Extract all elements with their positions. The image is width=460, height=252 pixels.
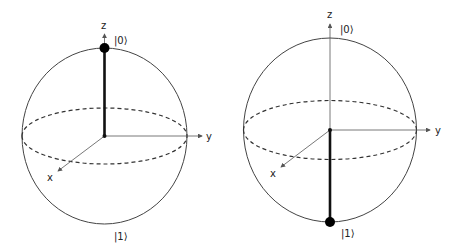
z-axis-label: z	[101, 20, 106, 31]
x-axis-label: x	[47, 172, 53, 183]
ket0-label: |0⟩	[114, 35, 128, 47]
bloch-sphere-right: z |0⟩ y x |1⟩	[244, 9, 442, 240]
ket1-label: |1⟩	[114, 231, 128, 243]
center-point	[328, 128, 332, 132]
equator-front	[22, 136, 187, 164]
ket1-label: |1⟩	[341, 228, 355, 240]
y-axis-label: y	[435, 125, 441, 136]
center-point	[103, 134, 107, 138]
diagram-canvas: z |0⟩ y x |1⟩ z |0⟩ y x |1⟩	[0, 0, 460, 252]
x-axis	[281, 130, 330, 167]
x-axis	[58, 136, 105, 171]
z-axis-label: z	[327, 9, 332, 20]
state-point	[325, 217, 335, 227]
bloch-sphere-left: z |0⟩ y x |1⟩	[22, 20, 212, 243]
state-point	[100, 43, 110, 53]
y-axis-label: y	[206, 131, 212, 142]
x-axis-label: x	[270, 168, 276, 179]
ket0-label: |0⟩	[340, 24, 354, 36]
